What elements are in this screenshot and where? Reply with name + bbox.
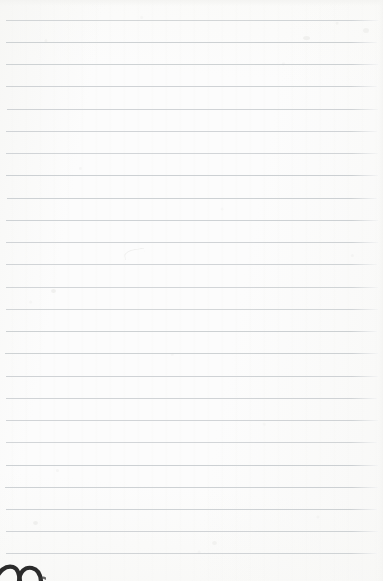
rule-line [6,465,378,466]
ruled-lines-layer [0,0,383,581]
rule-line [6,153,378,154]
rule-line [6,509,377,510]
rule-line [6,398,377,399]
rule-line [6,175,378,176]
rule-line [6,20,378,21]
notebook-page: Blank lined notebook page [0,0,383,581]
rule-line [6,242,378,243]
rule-line [6,331,377,332]
rule-line [6,220,378,221]
rule-line [6,376,378,377]
rule-line [6,442,377,443]
rule-line [5,487,378,488]
rule-line [6,420,378,421]
rule-line [6,264,377,265]
rule-line [7,109,378,110]
rule-line [6,42,377,43]
rule-line [6,531,378,532]
rule-line [6,64,378,65]
rule-line [6,86,377,87]
rule-line [6,309,378,310]
rule-line [5,353,378,354]
rule-line [6,287,378,288]
rule-line [6,131,377,132]
rule-line [6,553,377,554]
rule-line [7,198,377,199]
